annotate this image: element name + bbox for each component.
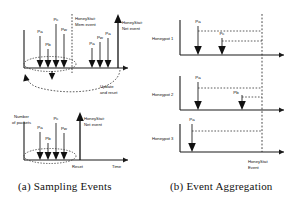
top-events-after: Pa Pw Pa: [89, 31, 112, 68]
event-label: Pa: [37, 29, 43, 34]
event-arrow: Pc: [53, 116, 60, 160]
event-label: Pb: [45, 136, 51, 141]
honeypot-2-label: Honeypot 2: [152, 92, 174, 97]
update-label-line1: Update: [100, 84, 114, 89]
honeypot-3-label: Honeypot 3: [152, 136, 174, 141]
aggregation-ellipse: [24, 149, 76, 164]
event-arrow: Pb: [45, 42, 52, 68]
honeypot-row-2: Honeypot 2 Pa Pb: [152, 75, 284, 113]
honeypot-1-label: Honeypot 1: [152, 36, 174, 41]
row3-x-axis-arrowhead: [279, 149, 284, 154]
update-label-line2: and reset: [100, 90, 118, 95]
reset-label: Reset: [72, 164, 84, 169]
event-arrow: Pa: [194, 19, 202, 55]
net-event-label-line2: Net event: [84, 122, 103, 127]
event-arrow: Pw: [97, 35, 104, 68]
y-axis-label-line2: of packets: [12, 120, 31, 125]
aggregated-event-arrow: [49, 71, 55, 80]
time-axis-label: Time: [112, 164, 122, 169]
caption-b: (b) Event Aggregation: [170, 180, 273, 192]
y-axis-label-line1: Number: [14, 114, 29, 119]
event-arrow: Pa: [37, 125, 44, 160]
net-event-label-line1: HoneyStat:: [84, 116, 105, 121]
event-label: Pa: [105, 31, 111, 36]
mem-event-label-line2: Mem event: [75, 22, 97, 27]
event-arrow: Pb: [45, 136, 52, 160]
event-arrow: Pc: [53, 17, 60, 68]
update-reset-arrowhead: [23, 74, 29, 82]
chart-top: Pa Pb Pc Pw: [23, 14, 143, 95]
net-event-arrow: [114, 14, 122, 68]
row1-x-axis-arrowhead: [279, 52, 284, 57]
event-label: Pw: [61, 27, 68, 32]
event-label: Pc: [53, 17, 59, 22]
event-arrow: Pw: [61, 126, 68, 160]
net-event-arrow: [76, 112, 84, 160]
honeystat-event-label-line1: HoneyStat: [248, 159, 268, 164]
honeypot-row-1: Honeypot 1 Pa Pc: [152, 19, 284, 58]
bottom-x-axis-arrowhead: [123, 157, 128, 162]
event-arrow: Pc: [218, 31, 226, 55]
event-label: Pa: [195, 75, 201, 80]
row2-x-axis-arrowhead: [279, 107, 284, 112]
event-arrow: Pa: [188, 117, 196, 152]
event-label: Pc: [219, 31, 225, 36]
event-label: Pb: [233, 90, 239, 95]
event-label: Pa: [195, 19, 201, 24]
panel-a-sampling-events: Pa Pb Pc Pw: [0, 0, 150, 180]
event-label: Pa: [89, 41, 95, 46]
aggregation-ellipse: [24, 57, 76, 72]
event-label: Pw: [97, 35, 104, 40]
event-label: Pw: [61, 126, 68, 131]
net-event-label-line1: HoneyStat:: [122, 20, 143, 25]
top-x-axis-arrowhead: [123, 65, 128, 70]
event-arrow: Pb: [233, 90, 245, 110]
event-arrow: Pw: [61, 27, 68, 68]
event-arrow: Pa: [194, 75, 202, 110]
mem-event-label-line1: HoneyStat:: [75, 16, 96, 21]
chart-bottom: Number of packets Pa Pb Pc: [12, 112, 128, 169]
event-label: Pa: [189, 117, 195, 122]
event-arrow: Pa: [37, 29, 44, 68]
event-arrow: Pa: [89, 41, 96, 68]
honeypot-row-3: Honeypot 3 Pa: [152, 117, 284, 155]
honeystat-event-label-line2: Event: [248, 165, 260, 170]
caption-a: (a) Sampling Events: [18, 180, 112, 192]
net-event-label-line2: Net event: [122, 26, 141, 31]
top-events-before: Pa Pb Pc Pw: [37, 17, 68, 68]
event-label: Pa: [37, 125, 43, 130]
event-arrow: Pa: [105, 31, 112, 68]
figure-container: Pa Pb Pc Pw: [0, 0, 300, 205]
event-label: Pb: [45, 42, 51, 47]
bottom-events: Pa Pb Pc Pw: [37, 116, 68, 160]
panel-b-event-aggregation: Honeypot 1 Pa Pc Honeypot 2: [150, 0, 300, 180]
event-label: Pc: [53, 116, 59, 121]
